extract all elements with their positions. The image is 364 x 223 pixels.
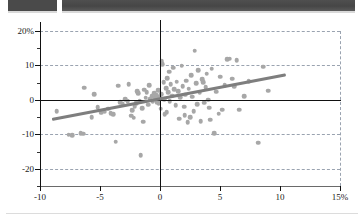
scatter-point [182,113,187,118]
scatter-point [145,90,150,95]
scatter-point [167,69,172,74]
scatter-point [199,119,204,124]
y-tick-label-20: 20% [18,26,35,36]
scatter-point [139,153,144,158]
scatter-point [266,88,271,93]
scatter-point [242,94,247,99]
scatter-point [182,104,187,109]
scatter-point [116,83,121,88]
scatter-point [127,82,132,87]
scatter-point [235,58,240,63]
zero-line-vertical [160,20,161,187]
scanned-page: 20%100-10-20-10-5051015% [0,0,364,223]
scatter-point [175,79,180,84]
scatter-point [140,106,145,111]
scatter-point [89,115,94,120]
scatter-point [55,109,60,114]
scatter-point [188,115,193,120]
scatter-point [141,119,146,124]
y-tick-label-0: 0 [30,95,35,105]
x-tick-label-15: 15% [332,192,349,202]
scatter-point [209,67,214,72]
y-minor-tick--5 [37,117,40,118]
scatter-point [130,108,135,113]
scatter-point [218,75,223,80]
y-tick--10 [35,134,40,135]
scatter-point [214,89,219,94]
scatter-point [208,118,213,123]
plot-area: 20%100-10-20-10-5051015% [40,31,340,186]
scatter-point [82,86,87,91]
scatter-point [227,56,232,61]
scatter-point [191,109,196,114]
scatter-point [81,131,86,136]
scatter-point [185,120,190,125]
zero-line-horizontal [38,100,341,101]
scatter-point [70,133,75,138]
redacted-header-block-left-shadow [8,11,57,13]
x-tick-label-5: 5 [218,192,223,202]
scatter-point [169,82,174,87]
x-tick-15 [340,186,341,191]
scatter-point [187,86,192,91]
x-tick-label--5: -5 [96,192,104,202]
x-tick-label-10: 10 [276,192,285,202]
scatter-point [230,77,235,82]
redacted-header-block-right-shadow [62,11,355,13]
scatter-point [189,73,194,78]
scatter-point [113,139,118,144]
scatter-point [165,76,170,81]
redacted-header-block-right [62,0,355,11]
y-minor-tick-15 [37,48,40,49]
scatter-chart: 20%100-10-20-10-5051015% [0,22,364,208]
scatter-point [193,48,198,53]
y-tick-label--20: -20 [22,164,34,174]
x-axis-spine [40,186,340,187]
y-tick--20 [35,169,40,170]
scatter-point [207,106,212,111]
x-tick--10 [40,186,41,191]
footer-divider [6,213,358,214]
scatter-point [173,103,178,108]
gridline-y-10 [40,65,340,66]
scatter-point [147,83,152,88]
scatter-point [212,131,217,136]
gridline-y-20 [40,31,340,32]
y-minor-tick--15 [37,152,40,153]
scatter-point [136,91,141,96]
y-tick-label--10: -10 [22,129,34,139]
x-tick-10 [280,186,281,191]
scatter-point [146,102,151,107]
scatter-point [177,117,182,122]
scatter-point [179,63,184,68]
scatter-point [171,65,176,70]
y-axis-spine [40,22,41,186]
x-tick-label-0: 0 [158,192,163,202]
x-tick-5 [220,186,221,191]
y-tick-label-10: 10 [25,60,34,70]
y-tick-10 [35,65,40,66]
scatter-point [261,65,266,70]
scatter-point [184,78,189,83]
scatter-point [131,116,136,121]
x-tick-label--10: -10 [34,192,46,202]
redacted-header-block-left [8,0,57,11]
scatter-point [181,84,186,89]
scatter-point [190,94,195,99]
x-tick--5 [100,186,101,191]
y-tick-20 [35,31,40,32]
gridline-x-15 [340,31,341,186]
scatter-point [164,110,169,115]
scatter-point [195,102,200,107]
scatter-point [194,81,199,86]
scatter-point [205,71,210,76]
scatter-point [256,140,261,145]
y-minor-tick-5 [37,83,40,84]
scatter-point [111,112,116,117]
scatter-point [237,107,242,112]
scatter-point [220,108,225,113]
gridline-y--20 [40,169,340,170]
scatter-point [92,92,97,97]
scatter-point [196,68,201,73]
